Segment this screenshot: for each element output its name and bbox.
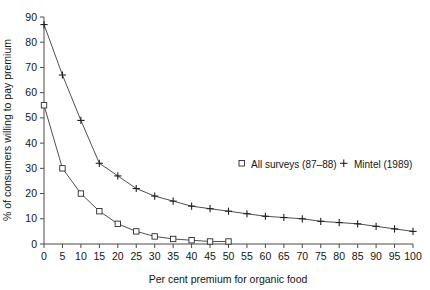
legend-square-marker — [239, 161, 245, 167]
x-tick-label: 10 — [75, 250, 87, 262]
y-axis-tick-labels: 0102030405060708090 — [25, 11, 37, 250]
data-point-marker — [78, 191, 83, 196]
chart-series-layer — [40, 21, 416, 244]
x-tick-label: 60 — [260, 250, 272, 262]
data-point-marker — [262, 213, 269, 220]
y-tick-label: 20 — [25, 187, 37, 199]
y-axis-title: % of consumers willing to pay premium — [1, 39, 13, 221]
data-point-marker — [189, 238, 194, 243]
line-chart: 0102030405060708090 05101520253035404550… — [0, 0, 430, 290]
data-point-marker — [373, 223, 380, 230]
data-point-marker — [151, 192, 158, 199]
y-tick-label: 90 — [25, 11, 37, 23]
data-point-marker — [317, 218, 324, 225]
legend-plus-marker — [340, 160, 348, 167]
data-point-marker — [77, 117, 84, 124]
x-tick-label: 95 — [389, 250, 401, 262]
data-point-marker — [206, 205, 213, 212]
x-tick-label: 65 — [278, 250, 290, 262]
data-point-marker — [391, 225, 398, 232]
data-point-marker — [59, 71, 66, 78]
data-point-marker — [40, 21, 47, 28]
data-point-marker — [188, 203, 195, 210]
y-tick-label: 10 — [25, 212, 37, 224]
x-tick-label: 90 — [370, 250, 382, 262]
x-tick-label: 80 — [333, 250, 345, 262]
x-tick-label: 45 — [204, 250, 216, 262]
data-point-marker — [409, 228, 416, 235]
x-tick-label: 5 — [60, 250, 66, 262]
x-tick-label: 40 — [186, 250, 198, 262]
series-2 — [40, 21, 416, 235]
series-line-1 — [44, 105, 229, 241]
data-point-marker — [225, 208, 232, 215]
data-point-marker — [170, 198, 177, 205]
y-tick-label: 50 — [25, 111, 37, 123]
data-point-marker — [299, 215, 306, 222]
y-tick-label: 70 — [25, 61, 37, 73]
x-tick-label: 0 — [41, 250, 47, 262]
data-point-marker — [134, 229, 139, 234]
data-point-marker — [114, 172, 121, 179]
x-tick-label: 15 — [94, 250, 106, 262]
x-tick-label: 30 — [149, 250, 161, 262]
data-point-marker — [97, 209, 102, 214]
x-tick-label: 50 — [223, 250, 235, 262]
series-1 — [41, 103, 231, 245]
x-tick-label: 100 — [404, 250, 422, 262]
data-point-marker — [280, 214, 287, 221]
x-tick-label: 35 — [167, 250, 179, 262]
data-point-marker — [354, 220, 361, 227]
data-point-marker — [115, 221, 120, 226]
data-point-marker — [41, 103, 46, 108]
y-tick-label: 60 — [25, 86, 37, 98]
legend-label-mintel: Mintel (1989) — [354, 159, 412, 170]
x-tick-label: 70 — [296, 250, 308, 262]
chart-figure: 0102030405060708090 05101520253035404550… — [0, 0, 430, 290]
data-point-marker — [133, 185, 140, 192]
data-point-marker — [226, 239, 231, 244]
data-point-marker — [96, 160, 103, 167]
x-tick-label: 75 — [315, 250, 327, 262]
y-tick-label: 40 — [25, 137, 37, 149]
y-tick-label: 80 — [25, 36, 37, 48]
y-tick-label: 0 — [31, 238, 37, 250]
data-point-marker — [336, 219, 343, 226]
y-axis-ticks — [40, 17, 44, 244]
data-point-marker — [170, 236, 175, 241]
x-axis-tick-labels: 0510152025303540455055606570758085909510… — [41, 250, 422, 262]
data-point-marker — [60, 166, 65, 171]
data-point-marker — [243, 210, 250, 217]
x-tick-label: 85 — [352, 250, 364, 262]
x-tick-label: 25 — [130, 250, 142, 262]
data-point-marker — [152, 234, 157, 239]
x-tick-label: 20 — [112, 250, 124, 262]
chart-legend: All surveys (87–88) Mintel (1989) — [239, 159, 412, 170]
y-tick-label: 30 — [25, 162, 37, 174]
series-line-2 — [44, 25, 413, 232]
x-tick-label: 55 — [241, 250, 253, 262]
x-axis-title: Per cent premium for organic food — [149, 273, 308, 285]
legend-label-all-surveys: All surveys (87–88) — [251, 159, 337, 170]
data-point-marker — [207, 239, 212, 244]
